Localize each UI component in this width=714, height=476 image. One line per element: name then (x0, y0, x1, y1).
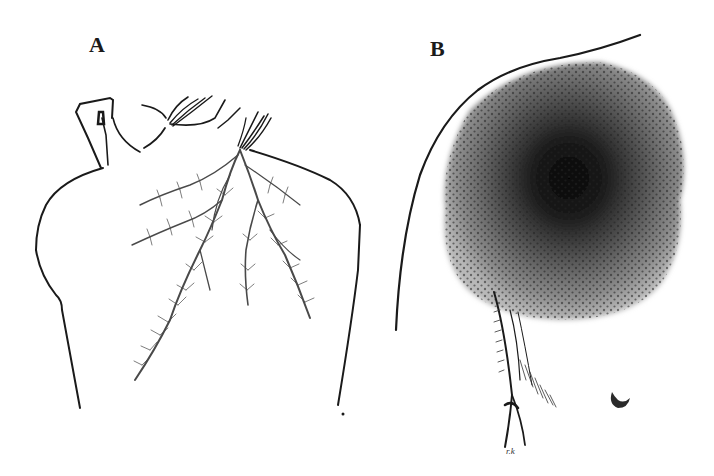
branching-pattern (132, 150, 314, 380)
figure: A B r.k (0, 0, 714, 476)
artist-signature: r.k (506, 446, 515, 456)
circular-mark (444, 62, 684, 320)
nipple (611, 392, 630, 408)
panel-label-a: A (89, 34, 105, 56)
panel-label-b: B (430, 38, 445, 60)
panel-b-drawing (396, 35, 684, 447)
figure-drawing (0, 0, 714, 476)
